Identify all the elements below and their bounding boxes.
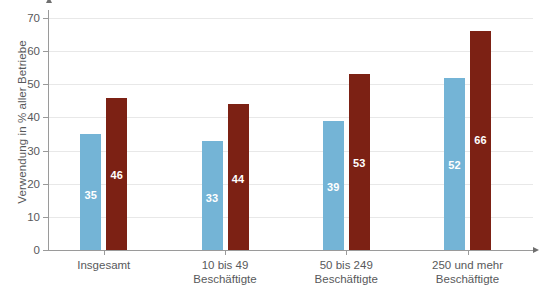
bar-chart: Verwendung in % aller Betriebe 010203040… — [0, 0, 544, 285]
category-label-line2: Beschäftigte — [388, 272, 544, 285]
bar-value-label: 33 — [202, 192, 223, 204]
category-label-line1: 50 bis 249 — [320, 259, 373, 271]
x-tick-mark — [225, 250, 226, 255]
bar-value-label: 44 — [228, 173, 249, 185]
y-axis-arrow-icon — [46, 0, 52, 3]
y-tick-label: 10 — [27, 211, 40, 223]
x-axis-arrow-icon — [533, 247, 539, 253]
bar-value-label: 66 — [470, 134, 491, 146]
bar-value-label: 52 — [444, 159, 465, 171]
y-tick-label: 50 — [27, 78, 40, 90]
y-tick-label: 20 — [27, 178, 40, 190]
category-label-line1: 10 bis 49 — [202, 259, 249, 271]
bar-value-label: 39 — [323, 181, 344, 193]
gridline — [48, 51, 533, 52]
x-axis-line — [48, 250, 533, 251]
bar-value-label: 35 — [80, 189, 101, 201]
y-tick-label: 0 — [34, 244, 40, 256]
y-axis-line — [48, 10, 49, 250]
x-tick-mark — [468, 250, 469, 255]
y-tick-label: 60 — [27, 45, 40, 57]
x-tick-mark — [346, 250, 347, 255]
x-tick-mark — [104, 250, 105, 255]
bar-value-label: 53 — [349, 157, 370, 169]
plot-area: 010203040506070 3546334439535266 Insgesa… — [48, 18, 533, 250]
y-tick-label: 30 — [27, 145, 40, 157]
category-label-line1: 250 und mehr — [432, 259, 503, 271]
category-label-line1: Insgesamt — [77, 259, 130, 271]
y-tick-label: 70 — [27, 12, 40, 24]
y-tick-label: 40 — [27, 111, 40, 123]
bar-value-label: 46 — [106, 169, 127, 181]
category-label: 250 und mehrBeschäftigte — [388, 258, 544, 285]
gridline — [48, 18, 533, 19]
